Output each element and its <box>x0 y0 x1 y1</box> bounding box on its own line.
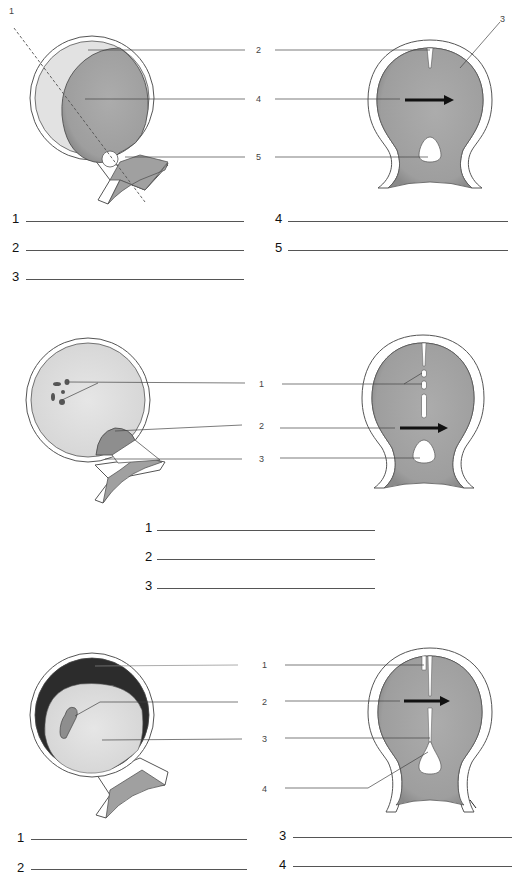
p1-answer-blank-4[interactable] <box>288 221 508 222</box>
p1-left-label-1: 1 <box>9 6 14 16</box>
p2-answer-blank-1[interactable] <box>157 530 375 531</box>
p1-answer-num-4: 4 <box>275 212 282 226</box>
p1-answer-num-1: 1 <box>12 212 19 226</box>
p2-answer-blank-2[interactable] <box>157 559 375 560</box>
p1-label-2: 2 <box>256 45 261 55</box>
p2-answer-num-1: 1 <box>145 521 152 535</box>
p1-right-label-3: 3 <box>500 14 505 24</box>
panel1-right-diagram <box>275 22 500 188</box>
p3-answer-num-4: 4 <box>279 858 286 872</box>
p3-label-2: 2 <box>262 697 267 707</box>
p1-label-5: 5 <box>256 152 261 162</box>
p3-answer-num-1: 1 <box>17 831 24 845</box>
p1-answer-blank-5[interactable] <box>288 250 508 251</box>
p3-label-1: 1 <box>262 660 267 670</box>
p1-answer-blank-1[interactable] <box>26 221 244 222</box>
p2-answer-blank-3[interactable] <box>157 588 375 589</box>
p2-label-3: 3 <box>259 454 264 464</box>
panel1-left-diagram <box>14 28 245 204</box>
p3-answer-blank-3[interactable] <box>293 837 512 838</box>
p3-answer-blank-1[interactable] <box>31 839 247 840</box>
p1-answer-num-3: 3 <box>12 270 19 284</box>
p3-label-4: 4 <box>262 784 267 794</box>
p3-answer-num-3: 3 <box>279 829 286 843</box>
p1-answer-num-2: 2 <box>12 241 19 255</box>
p1-answer-blank-2[interactable] <box>26 250 244 251</box>
p1-answer-blank-3[interactable] <box>26 279 244 280</box>
p3-answer-blank-2[interactable] <box>31 869 247 870</box>
p1-label-4: 4 <box>256 94 261 104</box>
panel3-right-diagram <box>285 648 492 812</box>
p2-label-1: 1 <box>259 379 264 389</box>
p2-label-2: 2 <box>259 421 264 431</box>
p3-answer-num-2: 2 <box>17 861 24 875</box>
panel3-left-diagram <box>30 653 242 818</box>
p2-answer-num-3: 3 <box>145 579 152 593</box>
p3-answer-blank-4[interactable] <box>293 866 512 867</box>
diagram-artwork <box>0 0 517 881</box>
p1-answer-num-5: 5 <box>275 241 282 255</box>
p2-answer-num-2: 2 <box>145 550 152 564</box>
p3-label-3: 3 <box>262 734 267 744</box>
panel2-right-diagram <box>280 335 484 488</box>
panel2-left-diagram <box>26 338 245 503</box>
